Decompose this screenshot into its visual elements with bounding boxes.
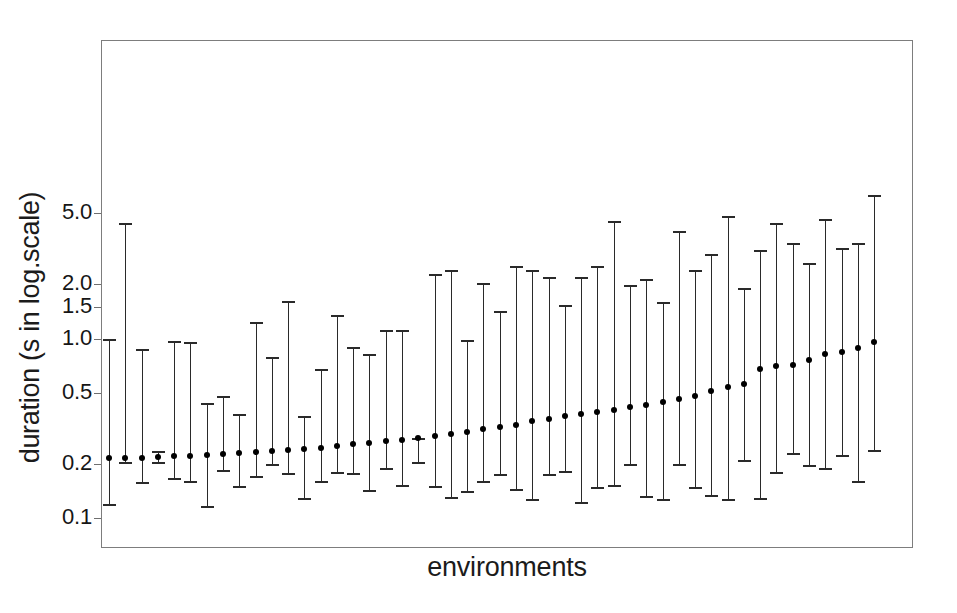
error-bar-upper-cap bbox=[852, 243, 865, 245]
data-point-marker[interactable] bbox=[187, 453, 193, 459]
error-bar-upper-cap bbox=[217, 396, 230, 398]
x-axis-label: environments bbox=[101, 552, 913, 583]
data-point-marker[interactable] bbox=[660, 399, 666, 405]
error-bar-upper-cap bbox=[819, 219, 832, 221]
data-point-marker[interactable] bbox=[627, 404, 633, 410]
data-point-marker[interactable] bbox=[562, 413, 568, 419]
data-point-marker[interactable] bbox=[155, 454, 161, 460]
error-bar-upper-cap bbox=[526, 270, 539, 272]
error-bar-upper-cap bbox=[250, 322, 263, 324]
data-point-marker[interactable] bbox=[106, 455, 112, 461]
data-point-marker[interactable] bbox=[773, 363, 779, 369]
data-point-marker[interactable] bbox=[790, 362, 796, 368]
data-point-marker[interactable] bbox=[236, 450, 242, 456]
data-point-marker[interactable] bbox=[366, 440, 372, 446]
data-point-marker[interactable] bbox=[822, 351, 828, 357]
error-bar-lower-cap bbox=[282, 473, 295, 475]
error-bar-lower-cap bbox=[722, 499, 735, 501]
error-bar-lower-cap bbox=[233, 486, 246, 488]
data-point-marker[interactable] bbox=[757, 366, 763, 372]
error-bar-upper-cap bbox=[184, 342, 197, 344]
error-bar-upper-cap bbox=[770, 223, 783, 225]
data-point-marker[interactable] bbox=[253, 449, 259, 455]
data-point-marker[interactable] bbox=[643, 402, 649, 408]
data-point-marker[interactable] bbox=[301, 446, 307, 452]
y-axis-tick-mark bbox=[94, 464, 101, 465]
data-point-marker[interactable] bbox=[399, 437, 405, 443]
data-point-marker[interactable] bbox=[594, 409, 600, 415]
data-point-marker[interactable] bbox=[806, 357, 812, 363]
data-point-marker[interactable] bbox=[448, 431, 454, 437]
data-point-marker[interactable] bbox=[529, 418, 535, 424]
error-bar-lower-cap bbox=[559, 471, 572, 473]
error-bar-upper-cap bbox=[673, 231, 686, 233]
error-bar-lower-cap bbox=[657, 499, 670, 501]
data-point-marker[interactable] bbox=[546, 416, 552, 422]
error-bar-upper-cap bbox=[363, 354, 376, 356]
data-point-marker[interactable] bbox=[220, 451, 226, 457]
data-point-marker[interactable] bbox=[741, 381, 747, 387]
error-bar-stem bbox=[516, 266, 517, 490]
data-point-marker[interactable] bbox=[480, 426, 486, 432]
data-point-marker[interactable] bbox=[513, 422, 519, 428]
data-point-marker[interactable] bbox=[334, 443, 340, 449]
error-bar-upper-cap bbox=[347, 347, 360, 349]
data-point-marker[interactable] bbox=[855, 345, 861, 351]
error-bar-upper-cap bbox=[298, 416, 311, 418]
y-axis-tick-mark bbox=[94, 307, 101, 308]
data-point-marker[interactable] bbox=[350, 441, 356, 447]
error-bar-upper-cap bbox=[868, 195, 881, 197]
error-bar-upper-cap bbox=[315, 369, 328, 371]
error-bar-upper-cap bbox=[103, 339, 116, 341]
error-bar-lower-cap bbox=[298, 498, 311, 500]
error-bar-upper-cap bbox=[233, 414, 246, 416]
error-bar-upper-cap bbox=[754, 250, 767, 252]
data-point-marker[interactable] bbox=[318, 445, 324, 451]
error-bar-lower-cap bbox=[363, 490, 376, 492]
error-bar-stem bbox=[679, 231, 680, 464]
error-bar-stem bbox=[874, 195, 875, 450]
error-bar-stem bbox=[142, 349, 143, 482]
error-bar-lower-cap bbox=[526, 499, 539, 501]
data-point-marker[interactable] bbox=[269, 448, 275, 454]
error-bar-lower-cap bbox=[608, 485, 621, 487]
error-bar-stem bbox=[581, 277, 582, 502]
data-point-marker[interactable] bbox=[708, 388, 714, 394]
error-bar-lower-cap bbox=[510, 489, 523, 491]
data-point-marker[interactable] bbox=[171, 453, 177, 459]
error-bar-stem bbox=[190, 342, 191, 482]
error-bar-upper-cap bbox=[608, 221, 621, 223]
data-point-marker[interactable] bbox=[497, 424, 503, 430]
error-bar-lower-cap bbox=[217, 470, 230, 472]
data-point-marker[interactable] bbox=[432, 433, 438, 439]
error-bar-upper-cap bbox=[331, 315, 344, 317]
error-bar-lower-cap bbox=[461, 491, 474, 493]
error-bar-upper-cap bbox=[396, 330, 409, 332]
data-point-marker[interactable] bbox=[676, 396, 682, 402]
data-point-marker[interactable] bbox=[578, 411, 584, 417]
y-axis-tick-mark bbox=[94, 213, 101, 214]
error-bar-upper-cap bbox=[461, 340, 474, 342]
data-point-marker[interactable] bbox=[415, 435, 421, 441]
data-point-marker[interactable] bbox=[383, 438, 389, 444]
error-bar-stem bbox=[793, 243, 794, 453]
data-point-marker[interactable] bbox=[285, 447, 291, 453]
data-point-marker[interactable] bbox=[611, 407, 617, 413]
data-point-marker[interactable] bbox=[871, 339, 877, 345]
data-point-marker[interactable] bbox=[204, 452, 210, 458]
data-point-marker[interactable] bbox=[692, 393, 698, 399]
error-bar-stem bbox=[630, 285, 631, 464]
y-axis-tick-label: 1.0 bbox=[26, 325, 92, 351]
error-bar-stem bbox=[565, 305, 566, 471]
y-axis-tick-label: 0.2 bbox=[26, 450, 92, 476]
data-point-marker[interactable] bbox=[464, 429, 470, 435]
error-bar-lower-cap bbox=[770, 472, 783, 474]
data-point-marker[interactable] bbox=[139, 455, 145, 461]
error-bar-upper-cap bbox=[282, 301, 295, 303]
data-point-marker[interactable] bbox=[122, 455, 128, 461]
error-bar-upper-cap bbox=[705, 254, 718, 256]
error-bar-stem bbox=[695, 270, 696, 488]
data-point-marker[interactable] bbox=[725, 384, 731, 390]
error-bar-lower-cap bbox=[624, 464, 637, 466]
data-point-marker[interactable] bbox=[839, 349, 845, 355]
